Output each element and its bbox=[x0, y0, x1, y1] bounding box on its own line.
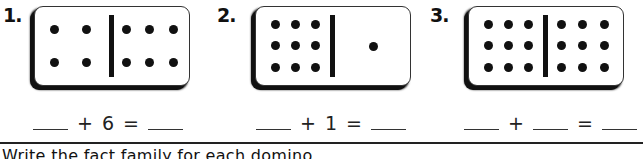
pip bbox=[524, 63, 533, 72]
domino-2 bbox=[255, 6, 411, 86]
pip bbox=[311, 41, 320, 50]
problem-number-2: 2. bbox=[217, 4, 235, 26]
pip bbox=[600, 63, 609, 72]
domino-2-divider bbox=[330, 15, 335, 77]
domino-1 bbox=[34, 6, 190, 86]
pip bbox=[122, 58, 131, 67]
pip bbox=[145, 58, 154, 67]
pip bbox=[50, 25, 59, 34]
pip bbox=[271, 41, 280, 50]
pip bbox=[271, 63, 280, 72]
pip bbox=[524, 20, 533, 29]
domino-3-right-half bbox=[549, 7, 623, 85]
equals-sign: = bbox=[346, 111, 362, 135]
plus-sign: + bbox=[77, 111, 93, 135]
domino-1-left-half bbox=[35, 7, 110, 85]
pip bbox=[557, 20, 566, 29]
pip bbox=[484, 41, 493, 50]
plus-sign: + bbox=[300, 111, 316, 135]
addend: 6 bbox=[102, 111, 114, 135]
pip bbox=[578, 63, 587, 72]
equals-sign: = bbox=[577, 111, 593, 135]
answer-blank[interactable] bbox=[464, 128, 499, 130]
domino-1-divider bbox=[109, 15, 114, 77]
answer-blank[interactable] bbox=[533, 128, 568, 130]
pip bbox=[524, 41, 533, 50]
pip bbox=[271, 20, 280, 29]
domino-3 bbox=[468, 6, 624, 86]
pip bbox=[369, 42, 378, 51]
pip bbox=[557, 41, 566, 50]
pip bbox=[122, 25, 131, 34]
pip bbox=[578, 41, 587, 50]
equation-1: + 6 = bbox=[33, 111, 183, 135]
pip bbox=[504, 63, 513, 72]
pip bbox=[600, 41, 609, 50]
answer-blank[interactable] bbox=[33, 128, 68, 130]
pip bbox=[484, 20, 493, 29]
pip bbox=[82, 58, 91, 67]
pip bbox=[82, 25, 91, 34]
equals-sign: = bbox=[123, 111, 139, 135]
pip bbox=[311, 20, 320, 29]
pip bbox=[169, 25, 178, 34]
problem-number-1: 1. bbox=[3, 4, 21, 26]
problem-number-3: 3. bbox=[430, 4, 448, 26]
pip bbox=[311, 63, 320, 72]
domino-3-divider bbox=[543, 15, 548, 77]
pip bbox=[145, 25, 154, 34]
equation-3: + = bbox=[464, 111, 637, 135]
pip bbox=[504, 20, 513, 29]
pip bbox=[291, 20, 300, 29]
section-divider bbox=[0, 142, 643, 144]
answer-blank[interactable] bbox=[371, 128, 406, 130]
addend: 1 bbox=[325, 111, 337, 135]
pip bbox=[291, 41, 300, 50]
answer-blank[interactable] bbox=[256, 128, 291, 130]
pip bbox=[578, 20, 587, 29]
domino-1-right-half bbox=[115, 7, 189, 85]
answer-blank[interactable] bbox=[602, 128, 637, 130]
pip bbox=[557, 63, 566, 72]
answer-blank[interactable] bbox=[148, 128, 183, 130]
pip bbox=[504, 41, 513, 50]
domino-3-left-half bbox=[469, 7, 544, 85]
pip bbox=[50, 58, 59, 67]
plus-sign: + bbox=[508, 111, 524, 135]
pip bbox=[600, 20, 609, 29]
instruction-text: Write the fact family for each domino. bbox=[2, 146, 318, 159]
equation-2: + 1 = bbox=[256, 111, 406, 135]
pip bbox=[291, 63, 300, 72]
domino-2-left-half bbox=[256, 7, 331, 85]
pip bbox=[484, 63, 493, 72]
domino-2-right-half bbox=[336, 7, 410, 85]
pip bbox=[169, 58, 178, 67]
